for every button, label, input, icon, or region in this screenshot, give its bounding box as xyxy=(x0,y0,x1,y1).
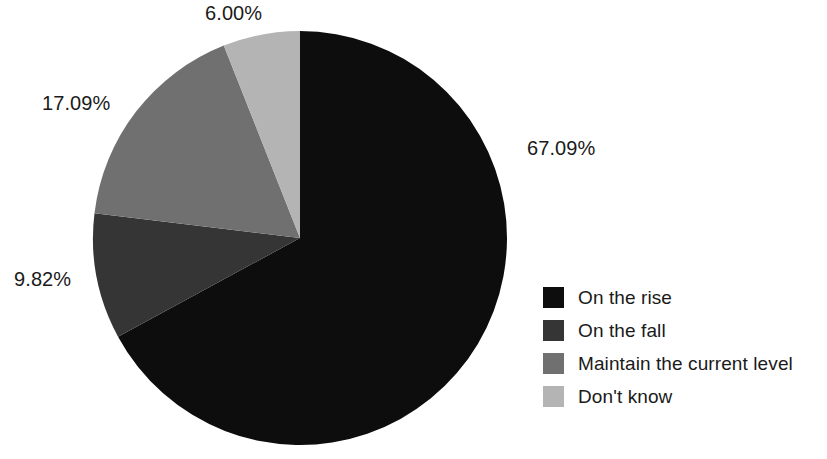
legend-item[interactable]: On the rise xyxy=(543,281,793,314)
slice-value-maintain: 17.09% xyxy=(42,92,110,115)
pie-slices-group xyxy=(93,31,507,445)
legend-item-label: On the fall xyxy=(578,320,666,342)
legend-item[interactable]: Maintain the current level xyxy=(543,347,793,380)
legend-color-swatch xyxy=(543,320,564,341)
chart-legend: On the riseOn the fallMaintain the curre… xyxy=(543,281,793,413)
slice-value-dont-know: 6.00% xyxy=(205,2,262,25)
legend-item-label: On the rise xyxy=(578,287,672,309)
legend-color-swatch xyxy=(543,386,564,407)
legend-item-label: Maintain the current level xyxy=(578,353,793,375)
legend-color-swatch xyxy=(543,287,564,308)
legend-item[interactable]: Don't know xyxy=(543,380,793,413)
pie-chart-figure: 6.00% 17.09% 9.82% 67.09% On the riseOn … xyxy=(0,0,827,459)
slice-value-on-the-fall: 9.82% xyxy=(14,268,71,291)
slice-value-on-the-rise: 67.09% xyxy=(527,137,595,160)
legend-color-swatch xyxy=(543,353,564,374)
legend-item-label: Don't know xyxy=(578,386,672,408)
legend-item[interactable]: On the fall xyxy=(543,314,793,347)
